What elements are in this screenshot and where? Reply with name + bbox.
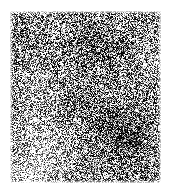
figure-root xyxy=(0,0,171,195)
grayscale-noise-image xyxy=(10,11,161,183)
noise-texture-panel xyxy=(10,11,161,183)
